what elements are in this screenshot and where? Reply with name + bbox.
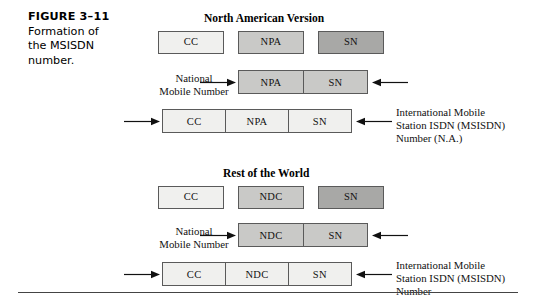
- bar-segment-ndc: NDC: [239, 224, 303, 246]
- bottom-divider-rule: [18, 292, 518, 293]
- arrow-national-to-bar-row: [200, 231, 236, 240]
- arrow-right-to-msisdn-bar-row: [356, 270, 392, 279]
- bar-segment-sn: SN: [303, 224, 367, 246]
- bar-segment-ndc: NDC: [225, 263, 287, 285]
- international-msisdn-bar-row: CC NDC SN: [162, 262, 352, 286]
- section-title-rest-of-world: Rest of the World: [223, 167, 309, 179]
- component-label: NDC: [259, 192, 282, 203]
- component-box-cc-row: CC: [158, 186, 224, 209]
- bar-segment-cc: CC: [163, 263, 225, 285]
- section-rest-of-the-world: Rest of the World CC NDC SN National Mob…: [0, 0, 536, 303]
- arrow-left-to-msisdn-bar-row: [124, 270, 160, 279]
- arrow-right-to-national-bar-row: [372, 231, 408, 240]
- component-box-sn-row: SN: [318, 186, 384, 209]
- component-box-ndc-row: NDC: [238, 186, 304, 209]
- international-label-line-1: International Mobile: [396, 259, 505, 272]
- international-label-line-2: Station ISDN (MSISDN): [396, 272, 505, 285]
- component-label: SN: [344, 192, 358, 203]
- component-label: CC: [184, 192, 199, 203]
- national-mobile-number-bar-row: NDC SN: [238, 223, 368, 247]
- bar-segment-sn: SN: [288, 263, 351, 285]
